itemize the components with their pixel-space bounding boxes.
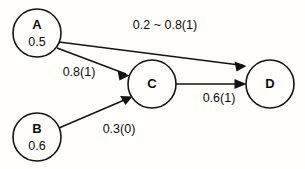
- node-b[interactable]: B 0.6: [13, 113, 61, 161]
- node-a-label: A: [32, 17, 42, 32]
- node-d-label: D: [265, 76, 274, 91]
- node-a-circle[interactable]: [13, 9, 61, 57]
- edge-a-to-c: 0.8(1): [57, 48, 130, 81]
- edge-a-to-c-arrowhead: [118, 71, 130, 81]
- node-b-label: B: [32, 121, 41, 136]
- node-b-circle[interactable]: [13, 113, 61, 161]
- graph-diagram: 0.2 ~ 0.8(1) 0.8(1) 0.3(0) 0.6(1) A 0.5: [0, 0, 305, 169]
- edge-c-to-d-arrowhead: [235, 79, 247, 89]
- edge-b-to-c-label: 0.3(0): [103, 122, 136, 136]
- node-c-label: C: [147, 76, 157, 91]
- edge-c-to-d: 0.6(1): [176, 79, 247, 105]
- edge-a-to-d-label: 0.2 ~ 0.8(1): [133, 18, 197, 32]
- node-a[interactable]: A 0.5: [13, 9, 61, 57]
- edge-c-to-d-label: 0.6(1): [203, 91, 236, 105]
- node-d[interactable]: D: [246, 60, 294, 108]
- node-b-value: 0.6: [28, 139, 45, 153]
- node-c[interactable]: C: [128, 60, 176, 108]
- edge-b-to-c: 0.3(0): [59, 96, 135, 136]
- edge-a-to-c-label: 0.8(1): [63, 65, 96, 79]
- graph-canvas: 0.2 ~ 0.8(1) 0.8(1) 0.3(0) 0.6(1) A 0.5: [0, 0, 305, 169]
- edge-a-to-d-arrowhead: [235, 62, 247, 72]
- node-a-value: 0.5: [28, 35, 45, 49]
